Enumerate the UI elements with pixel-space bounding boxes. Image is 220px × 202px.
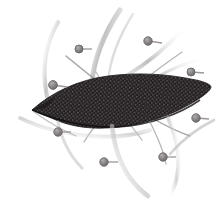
pin-head-icon — [75, 45, 83, 53]
pin-head-icon — [54, 128, 62, 136]
pin-head-icon — [144, 37, 152, 45]
pin-head-icon — [187, 68, 195, 76]
illustration-canvas: Textured dark leaf-shaped pod with radia… — [0, 0, 220, 202]
leaf-pod-illustration — [0, 0, 220, 202]
pin-head-icon — [100, 158, 108, 166]
pin-head-icon — [192, 114, 200, 122]
pin-head-icon — [159, 153, 167, 161]
pin-head-icon — [49, 81, 58, 90]
